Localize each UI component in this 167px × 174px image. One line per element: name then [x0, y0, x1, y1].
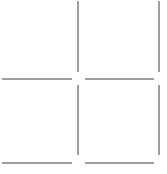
divider-vertical-bottom-left — [77, 85, 79, 155]
divider-horizontal-top-left — [2, 78, 72, 80]
grid-cell-top-left[interactable] — [0, 0, 76, 78]
quad-grid — [0, 0, 167, 174]
divider-horizontal-bottom-left — [2, 162, 72, 164]
grid-cell-bottom-left[interactable] — [0, 84, 76, 162]
divider-vertical-bottom-right — [158, 85, 160, 155]
divider-horizontal-bottom-right — [85, 162, 154, 164]
grid-cell-bottom-right[interactable] — [82, 84, 157, 162]
grid-cell-top-right[interactable] — [82, 0, 157, 78]
divider-vertical-top-right — [158, 1, 160, 72]
divider-horizontal-top-right — [85, 78, 154, 80]
divider-vertical-top-left — [77, 1, 79, 72]
